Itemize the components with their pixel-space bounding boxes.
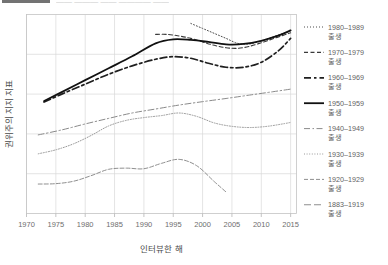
legend-label-range-2: 1960–1969 — [328, 73, 364, 82]
legend-entry-1: 1970–1979출생 — [304, 48, 364, 66]
plot-border — [27, 15, 297, 214]
chart-figure: —— ——— —— ———— —— 1970197519801985199019… — [0, 0, 388, 265]
legend-entry-3: 1950–1959출생 — [304, 99, 364, 117]
x-axis-title: 인터뷰한 해 — [140, 244, 182, 254]
x-tick-label-9: 2015 — [282, 220, 299, 229]
series-layer — [38, 23, 290, 192]
legend-label-birth-0: 출생 — [328, 32, 342, 41]
plot-frame — [27, 15, 297, 214]
legend-label-range-7: 1883–1919 — [328, 200, 364, 209]
chart-legend: 1980–1989출생1970–1979출생1960–1969출생1950–19… — [304, 23, 364, 219]
legend-entry-6: 1920–1929출생 — [304, 175, 364, 193]
series-line-6 — [38, 159, 226, 192]
x-tick-label-1: 1975 — [48, 220, 65, 229]
x-tick-label-0: 1970 — [18, 220, 35, 229]
x-tick-label-6: 2000 — [194, 220, 211, 229]
legend-label-range-5: 1930–1939 — [328, 150, 364, 159]
legend-label-birth-3: 출생 — [328, 108, 342, 117]
legend-label-range-6: 1920–1929 — [328, 175, 364, 184]
grid-layer — [27, 15, 297, 214]
x-tick-label-4: 1990 — [136, 220, 153, 229]
x-tick-label-3: 1985 — [106, 220, 123, 229]
x-tick-label-5: 1995 — [165, 220, 182, 229]
legend-entry-5: 1930–1939출생 — [304, 150, 364, 168]
legend-entry-7: 1883–1919출생 — [304, 200, 364, 218]
legend-label-range-1: 1970–1979 — [328, 48, 364, 57]
series-line-2 — [44, 38, 291, 102]
legend-entry-0: 1980–1989출생 — [304, 23, 364, 41]
legend-label-birth-6: 출생 — [328, 184, 342, 193]
legend-label-birth-4: 출생 — [328, 133, 342, 142]
line-chart: 1970197519801985199019952000200520102015… — [0, 0, 388, 265]
series-line-1 — [156, 33, 291, 49]
legend-entry-4: 1940–1949출생 — [304, 124, 364, 142]
series-line-4 — [38, 89, 290, 135]
legend-label-range-4: 1940–1949 — [328, 124, 364, 133]
legend-label-range-3: 1950–1959 — [328, 99, 364, 108]
x-tick-label-2: 1980 — [77, 220, 94, 229]
legend-label-birth-2: 출생 — [328, 82, 342, 91]
legend-label-birth-7: 출생 — [328, 209, 342, 218]
x-tick-label-8: 2010 — [253, 220, 270, 229]
legend-label-birth-5: 출생 — [328, 159, 342, 168]
x-tick-label-7: 2005 — [224, 220, 241, 229]
x-tick-labels: 1970197519801985199019952000200520102015 — [18, 214, 299, 229]
legend-label-birth-1: 출생 — [328, 57, 342, 66]
legend-label-range-0: 1980–1989 — [328, 23, 364, 32]
y-axis-title: 권위주의 지지 지표 — [4, 80, 14, 149]
legend-entry-2: 1960–1969출생 — [304, 73, 364, 91]
series-line-5 — [38, 113, 290, 154]
